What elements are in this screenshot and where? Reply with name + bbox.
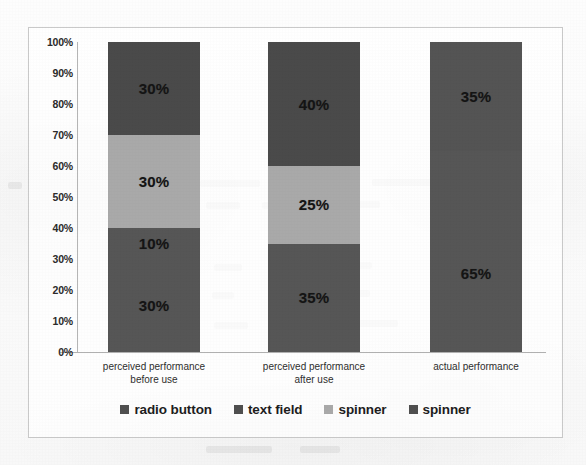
legend-swatch-icon	[120, 405, 129, 414]
bar-segment[interactable]: 30%	[108, 259, 200, 352]
bar-segment-value-label: 10%	[139, 235, 170, 252]
x-axis-category-label-line: perceived performance	[244, 360, 384, 373]
y-axis-tick-labels: 100%90%80%70%60%50%40%30%20%10%0%	[28, 0, 73, 465]
x-axis-category-label: perceived performanceafter use	[244, 360, 384, 386]
x-axis-category-label-line: actual performance	[406, 360, 546, 373]
x-axis-category-label: perceived performancebefore use	[84, 360, 224, 386]
bar-segment-value-label: 30%	[139, 80, 170, 97]
bar-segment-value-label: 25%	[299, 196, 330, 213]
legend-item[interactable]: text field	[234, 402, 303, 417]
legend-swatch-icon	[324, 405, 333, 414]
bar-segment[interactable]: 65%	[430, 151, 522, 353]
bar-segment[interactable]: 25%	[268, 166, 360, 244]
y-axis-tick-label: 100%	[31, 36, 73, 48]
y-axis-tick-label: 40%	[31, 222, 73, 234]
y-axis-tick-label: 90%	[31, 67, 73, 79]
y-axis-tick-label: 80%	[31, 98, 73, 110]
bar-segment-value-label: 35%	[299, 289, 330, 306]
legend-swatch-icon	[409, 405, 418, 414]
bar-segment[interactable]: 10%	[108, 228, 200, 259]
legend-swatch-icon	[234, 405, 243, 414]
y-axis-tick-label: 50%	[31, 191, 73, 203]
legend-label: text field	[248, 402, 303, 417]
x-axis-category-label: actual performance	[406, 360, 546, 373]
scan-bleed-artifact	[206, 446, 272, 453]
y-axis-tick-label: 10%	[31, 315, 73, 327]
bar-segment[interactable]: 40%	[268, 42, 360, 166]
y-axis-tick-label: 0%	[31, 346, 73, 358]
scan-bleed-artifact	[8, 182, 22, 189]
bar-segment-value-label: 40%	[299, 96, 330, 113]
bar-segment[interactable]: 35%	[268, 244, 360, 353]
stacked-bar[interactable]: 35%65%	[430, 42, 522, 352]
legend-item[interactable]: radio button	[120, 402, 212, 417]
x-axis-category-label-line: before use	[84, 373, 224, 386]
legend-item[interactable]: spinner	[409, 402, 471, 417]
bar-segment-value-label: 30%	[139, 297, 170, 314]
bar-segment[interactable]: 30%	[108, 42, 200, 135]
stacked-bar[interactable]: 30%30%10%30%	[108, 42, 200, 352]
y-axis-tick-label: 20%	[31, 284, 73, 296]
bar-segment-value-label: 30%	[139, 173, 170, 190]
y-axis-tick-label: 70%	[31, 129, 73, 141]
bar-segment[interactable]: 35%	[430, 42, 522, 151]
legend-label: spinner	[338, 402, 386, 417]
x-axis-category-label-line: after use	[244, 373, 384, 386]
scan-bleed-artifact	[300, 446, 340, 453]
plot-area: 30%30%10%30%40%25%35%35%65%	[78, 42, 534, 352]
legend-label: spinner	[423, 402, 471, 417]
bar-segment-value-label: 35%	[461, 88, 492, 105]
legend-label: radio button	[134, 402, 212, 417]
bar-segment-value-label: 65%	[461, 265, 492, 282]
y-axis-tick-label: 30%	[31, 253, 73, 265]
stacked-bar[interactable]: 40%25%35%	[268, 42, 360, 352]
legend-item[interactable]: spinner	[324, 402, 386, 417]
x-axis-category-label-line: perceived performance	[84, 360, 224, 373]
bar-segment[interactable]: 30%	[108, 135, 200, 228]
x-axis-line	[60, 352, 546, 353]
chart-legend: radio buttontext fieldspinnerspinner	[28, 402, 563, 417]
y-axis-tick-label: 60%	[31, 160, 73, 172]
